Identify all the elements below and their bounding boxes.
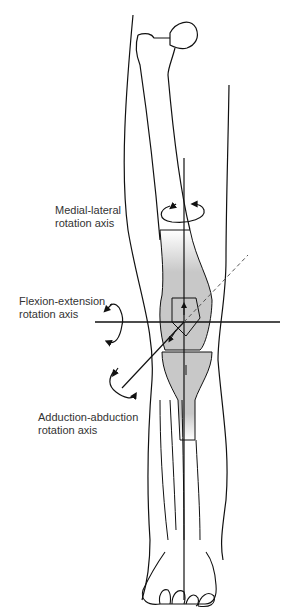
- adduction-abduction-label: Adduction-abduction rotation axis: [38, 411, 138, 437]
- flexion-extension-rotation-arrow: [108, 304, 123, 343]
- medial-lateral-rotation-arrow: [161, 204, 204, 222]
- medial-lateral-label: Medial-lateral rotation axis: [55, 204, 121, 230]
- femur-condyle-shade: [160, 230, 212, 350]
- adduction-abduction-rotation-arrow: [110, 370, 135, 398]
- flexion-extension-label: Flexion-extension rotation axis: [19, 295, 105, 321]
- tibia-shade: [162, 352, 212, 440]
- foot: [142, 552, 216, 607]
